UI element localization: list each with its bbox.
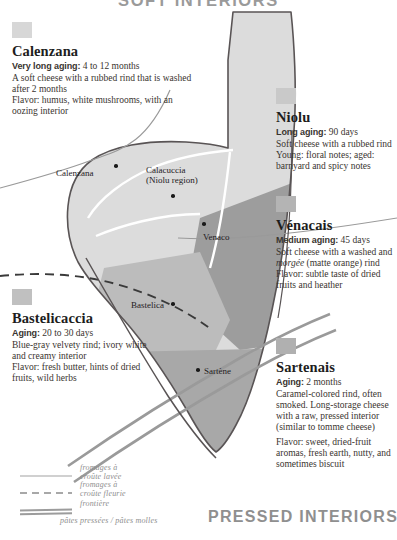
cheese-entry-sartenais: Sartenais Aging: 2 months Caramel-colore…	[276, 338, 396, 471]
map-dot-calenzana	[114, 164, 118, 168]
map-label-calacuccia-sub: (Niolu region)	[146, 175, 198, 185]
cheese-aging-calenzana: Very long aging: 4 to 12 months	[12, 61, 192, 72]
cheese-entry-venacais: Vénacais Medium aging: 45 days Soft chee…	[276, 196, 397, 292]
cheese-aging-niolu: Long aging: 90 days	[276, 127, 396, 138]
cheese-description-niolu: Soft cheese with a rubbed rind	[276, 139, 396, 150]
map-label-calacuccia: Calacuccia (Niolu region)	[146, 165, 198, 185]
map-dot-venaco	[202, 222, 206, 226]
legend-label-croute-fleurie-line2: croûte fleurie	[80, 489, 126, 498]
cheese-aging-label-bastelicaccia: Aging:	[12, 328, 40, 338]
cheese-aging-label-sartenais: Aging:	[276, 377, 304, 387]
map-label-calenzana-text: Calenzana	[56, 168, 93, 178]
cheese-flavor-sartenais: Flavor: sweet, dried-fruit aromas, fresh…	[276, 437, 396, 471]
cheese-description-sartenais: Caramel-colored rind, often smoked. Long…	[276, 389, 396, 434]
legend-label-frontiere-line1: frontière	[80, 499, 109, 508]
map-dot-bastelica	[171, 302, 175, 306]
legend-item-pates: pâtes pressées / pâtes molles	[14, 518, 204, 538]
cheese-aging-value-venacais: 45 days	[341, 235, 370, 245]
color-swatch-venacais	[276, 196, 296, 212]
color-swatch-sartenais	[276, 338, 296, 354]
cheese-name-calenzana: Calenzana	[12, 43, 192, 60]
cheese-name-niolu: Niolu	[276, 109, 396, 126]
cheese-aging-value-bastelicaccia: 20 to 30 days	[42, 328, 93, 338]
dashed-line-icon	[18, 488, 74, 498]
cheese-name-bastelicaccia: Bastelicaccia	[12, 310, 162, 327]
color-swatch-calenzana	[12, 22, 32, 38]
cheese-name-venacais: Vénacais	[276, 217, 397, 234]
cheese-aging-sartenais: Aging: 2 months	[276, 377, 396, 388]
cheese-aging-bastelicaccia: Aging: 20 to 30 days	[12, 328, 162, 339]
map-dot-sartene	[196, 368, 200, 372]
page-title-bottom: PRESSED INTERIORS	[208, 508, 397, 526]
cheese-entry-niolu: Niolu Long aging: 90 days Soft cheese wi…	[276, 88, 396, 172]
cheese-aging-value-calenzana: 4 to 12 months	[83, 61, 140, 71]
legend-label-croute-fleurie-line1: fromages à	[80, 480, 126, 489]
cheese-description-venacais-emphasis: morgée	[276, 258, 304, 268]
cheese-description-venacais-pre: Soft cheese with a washed and	[276, 247, 392, 257]
cheese-aging-venacais: Medium aging: 45 days	[276, 235, 397, 246]
map-label-calenzana: Calenzana	[56, 168, 93, 178]
cheese-description-venacais-post: (matte orange) rind	[304, 258, 380, 268]
map-label-calacuccia-text: Calacuccia	[146, 165, 185, 175]
solid-thin-line-icon	[18, 471, 74, 481]
cheese-description-calenzana: A soft cheese with a rubbed rind that is…	[12, 73, 192, 96]
cheese-flavor-venacais: Flavor: subtle taste of dried fruits and…	[276, 269, 397, 292]
cheese-entry-bastelicaccia: Bastelicaccia Aging: 20 to 30 days Blue-…	[12, 289, 162, 385]
cheese-aging-value-sartenais: 2 months	[306, 377, 341, 387]
cheese-aging-label-venacais: Medium aging:	[276, 235, 338, 245]
legend-label-croute-lavee-line1: fromages à	[80, 463, 121, 472]
map-label-venaco-text: Venaco	[203, 232, 230, 242]
color-swatch-niolu	[276, 88, 296, 104]
cheese-flavor-bastelicaccia: Flavor: fresh butter, hints of dried fru…	[12, 362, 162, 385]
cheese-aging-label-niolu: Long aging:	[276, 127, 326, 137]
cheese-name-sartenais: Sartenais	[276, 359, 396, 376]
legend-label-pates: pâtes pressées / pâtes molles	[60, 516, 158, 525]
map-label-sartene: Sartène	[204, 366, 231, 376]
cheese-flavor-calenzana: Flavor: humus, white mushrooms, with an …	[12, 95, 192, 118]
cheese-entry-calenzana: Calenzana Very long aging: 4 to 12 month…	[12, 22, 192, 118]
map-legend: fromages à croûte lavée fromages à croût…	[14, 466, 204, 532]
legend-label-frontiere: frontière	[80, 499, 109, 508]
color-swatch-bastelicaccia	[12, 289, 32, 305]
legend-label-pates-line1: pâtes pressées / pâtes molles	[60, 516, 158, 525]
map-dot-calacuccia	[171, 194, 175, 198]
legend-label-croute-fleurie: fromages à croûte fleurie	[80, 480, 126, 499]
cheese-description-bastelicaccia: Blue-gray velvety rind; ivory white and …	[12, 340, 162, 363]
cheese-aging-value-niolu: 90 days	[329, 127, 358, 137]
map-label-venaco: Venaco	[203, 232, 230, 242]
cheese-aging-label-calenzana: Very long aging:	[12, 61, 80, 71]
map-label-sartene-text: Sartène	[204, 366, 231, 376]
cheese-description-venacais: Soft cheese with a washed and morgée (ma…	[276, 247, 397, 270]
cheese-flavor-niolu: Young: floral notes; aged: barnyard and …	[276, 150, 396, 173]
cheese-map-infographic: SOFT INTERIORS	[0, 0, 397, 540]
